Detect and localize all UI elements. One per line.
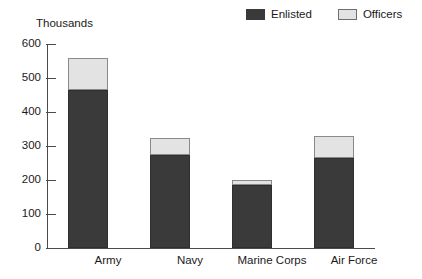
y-tick-mark: [46, 214, 56, 215]
y-tick-mark: [46, 112, 56, 113]
bar-segment-officers[interactable]: [150, 138, 190, 155]
y-tick-mark: [46, 180, 56, 181]
legend-label-enlisted: Enlisted: [271, 8, 312, 20]
legend-swatch-officers-icon: [338, 9, 357, 20]
y-tick-label: 0: [35, 242, 41, 254]
legend-swatch-enlisted-icon: [246, 9, 265, 20]
bar-segment-officers[interactable]: [314, 136, 354, 158]
y-tick-label: 200: [22, 174, 41, 186]
y-tick-label: 300: [22, 140, 41, 152]
plot-area: 0100200300400500600 ArmyNavyMarine Corps…: [47, 44, 375, 248]
y-tick-label: 500: [22, 72, 41, 84]
y-tick-mark: [46, 248, 56, 249]
x-axis-line: [47, 248, 375, 249]
y-tick-mark: [46, 78, 56, 79]
x-axis-label: Air Force: [299, 254, 409, 266]
y-tick-label: 600: [22, 38, 41, 50]
y-axis-unit-caption: Thousands: [36, 17, 93, 29]
y-tick-label: 100: [22, 208, 41, 220]
bar-segment-enlisted[interactable]: [314, 158, 354, 248]
y-tick-mark: [46, 44, 56, 45]
chart-legend: Enlisted Officers: [246, 8, 402, 20]
bar-segment-officers[interactable]: [68, 58, 108, 90]
legend-label-officers: Officers: [363, 8, 402, 20]
bar-segment-enlisted[interactable]: [150, 155, 190, 249]
bar-segment-enlisted[interactable]: [232, 185, 272, 248]
y-tick-label: 400: [22, 106, 41, 118]
y-tick-mark: [46, 146, 56, 147]
legend-item-enlisted: Enlisted: [246, 8, 312, 20]
legend-item-officers: Officers: [338, 8, 402, 20]
stacked-bar-chart: Enlisted Officers Thousands 010020030040…: [0, 0, 422, 279]
bar-segment-enlisted[interactable]: [68, 90, 108, 248]
bar-segment-officers[interactable]: [232, 180, 272, 185]
